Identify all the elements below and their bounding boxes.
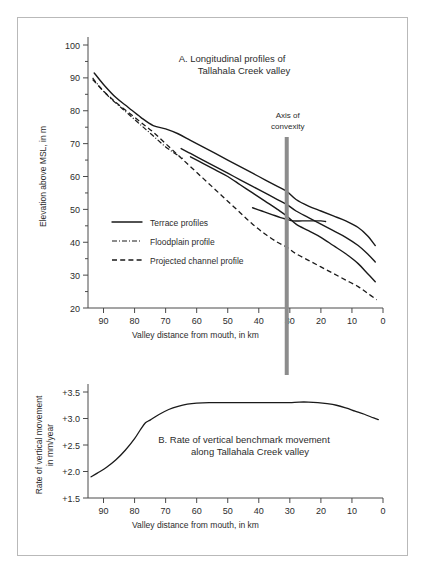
panel-a-y-tick-label: 40 [70,238,80,248]
panel-a-y-tick-label: 70 [70,139,80,149]
panel-b-x-tick-label: 80 [130,506,140,516]
panel-a-x-tick-label: 50 [223,316,233,326]
panel-b-y-tick-label: +3.5 [62,388,80,398]
panel-b-x-tick-label: 90 [99,506,109,516]
panel-a-x-tick-label: 70 [161,316,171,326]
panel-b-x-tick-label: 40 [254,506,264,516]
panel-a-x-tick-label: 0 [380,316,385,326]
panel-a-x-tick-label: 80 [130,316,140,326]
panel-a-x-tick-label: 20 [316,316,326,326]
panel-a-y-tick-label: 30 [70,271,80,281]
panel-a-x-tick-label: 90 [99,316,109,326]
panel-b-y-tick-label: +3.0 [62,414,80,424]
panel-b-x-tick-label: 60 [192,506,202,516]
panel-a-y-tick-label: 50 [70,205,80,215]
panel-b-x-tick-label: 10 [347,506,357,516]
panel-b-x-tick-label: 50 [223,506,233,516]
axis-of-convexity-label-line1: Axis of [276,111,301,120]
panel-b-y-tick-label: +2.0 [62,467,80,477]
legend-label-2: Floodplain profile [150,237,215,247]
panel-b-x-tick-label: 30 [285,506,295,516]
panel-a-series-1 [94,73,375,246]
panel-b-x-tick-label: 20 [316,506,326,516]
panel-a-title-line2: Tallahala Creek valley [198,65,291,76]
panel-b-title-line2: along Tallahala Creek valley [191,446,309,457]
panel-b-vertical-movement-rate: +1.5+2.0+2.5+3.0+3.59080706050403020100V… [34,384,386,530]
panel-a-series-4 [253,208,326,222]
panel-a-x-tick-label: 10 [347,316,357,326]
panel-a-x-axis-title: Valley distance from mouth, in km [132,330,259,340]
panel-a-y-tick-label: 20 [70,304,80,314]
legend-label-1: Terrace profiles [150,218,208,228]
panel-b-y-axis-title-line1: Rate of vertical movement [34,395,44,494]
legend-label-3: Projected channel profile [150,256,244,266]
panel-a-y-axis-title: Elevation above MSL, in m [38,126,48,227]
panel-b-title-line1: B. Rate of vertical benchmark movement [158,434,330,445]
panel-b-y-axis-title-line2: in mm/year [45,424,55,466]
panel-b-y-tick-label: +2.5 [62,441,80,451]
panel-a-title-line1: A. Longitudinal profiles of [179,53,286,64]
panel-a-x-tick-label: 40 [254,316,264,326]
panel-a-x-tick-label: 60 [192,316,202,326]
panel-a-y-tick-label: 90 [70,73,80,83]
chart-svg: 20304050607080901009080706050403020100Va… [0,0,426,574]
panel-a-y-tick-label: 60 [70,172,80,182]
panel-b-x-axis-title: Valley distance from mouth, in km [132,520,259,530]
panel-b-x-tick-label: 70 [161,506,171,516]
panel-a-longitudinal-profiles: 20304050607080901009080706050403020100Va… [38,37,386,375]
panel-a-y-tick-label: 80 [70,106,80,116]
axis-of-convexity-label-line2: convexity [271,122,304,131]
panel-a-y-tick-label: 100 [65,41,80,51]
figure-root: 20304050607080901009080706050403020100Va… [0,0,426,574]
panel-b-y-tick-label: +1.5 [62,494,80,504]
panel-b-x-tick-label: 0 [380,506,385,516]
